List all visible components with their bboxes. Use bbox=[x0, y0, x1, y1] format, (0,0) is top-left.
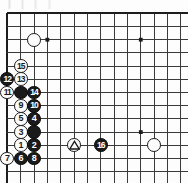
go-diagram-page: 15121311149105431216768 bbox=[0, 0, 188, 183]
stone-move-number: 10 bbox=[30, 101, 37, 110]
stone-black-move-2[interactable]: 2 bbox=[27, 138, 41, 152]
star-point bbox=[45, 38, 49, 42]
stone-white-move-9[interactable]: 9 bbox=[14, 99, 28, 113]
stone-white-marked-triangle[interactable] bbox=[67, 138, 81, 152]
stone-white-move-13[interactable]: 13 bbox=[14, 72, 28, 86]
stone-move-number: 3 bbox=[18, 127, 23, 136]
star-point bbox=[139, 38, 143, 42]
triangle-marker-icon bbox=[69, 140, 80, 150]
stone-white-move-1[interactable]: 1 bbox=[14, 138, 28, 152]
stone-move-number: 15 bbox=[17, 61, 24, 70]
stone-black[interactable] bbox=[27, 125, 41, 139]
stone-move-number: 14 bbox=[30, 88, 37, 97]
stone-white-move-15[interactable]: 15 bbox=[14, 59, 28, 73]
stone-black-move-16[interactable]: 16 bbox=[94, 138, 108, 152]
stone-black[interactable] bbox=[14, 86, 28, 100]
stone-move-number: 11 bbox=[4, 88, 11, 97]
stone-white-move-3[interactable]: 3 bbox=[14, 125, 28, 139]
stone-black-move-4[interactable]: 4 bbox=[27, 112, 41, 126]
stone-move-number: 6 bbox=[18, 153, 23, 162]
stone-black-move-8[interactable]: 8 bbox=[27, 152, 41, 166]
stone-black-move-14[interactable]: 14 bbox=[27, 86, 41, 100]
stone-move-number: 7 bbox=[5, 153, 10, 162]
stone-move-number: 16 bbox=[97, 141, 104, 150]
stone-move-number: 1 bbox=[18, 140, 23, 149]
stone-move-number: 13 bbox=[17, 75, 24, 84]
stone-move-number: 2 bbox=[32, 140, 37, 149]
star-point bbox=[139, 130, 143, 134]
stone-move-number: 12 bbox=[4, 75, 11, 84]
stone-black-move-6[interactable]: 6 bbox=[14, 152, 28, 166]
stone-white-move-5[interactable]: 5 bbox=[14, 112, 28, 126]
stone-move-number: 8 bbox=[32, 153, 37, 162]
stone-move-number: 5 bbox=[18, 114, 23, 123]
stone-black-move-10[interactable]: 10 bbox=[27, 99, 41, 113]
stone-move-number: 4 bbox=[32, 114, 37, 123]
stone-move-number: 9 bbox=[18, 101, 23, 110]
stone-white[interactable] bbox=[27, 33, 41, 47]
